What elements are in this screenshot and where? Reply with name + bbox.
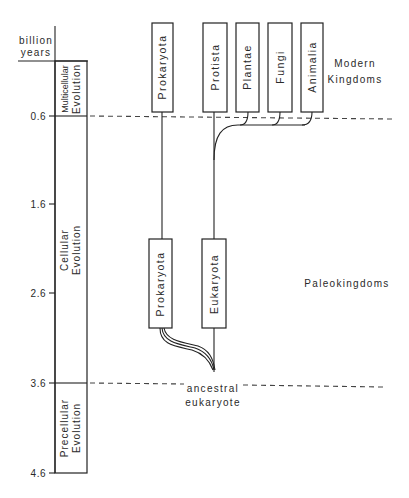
- svg-text:Evolution: Evolution: [71, 403, 82, 453]
- evolution-timeline-diagram: billion years 0.6 1.6 2.6 3.6 4.6 Multic…: [0, 0, 409, 498]
- paleo-box-eukaryota: Eukaryota: [202, 239, 226, 328]
- boundary-0-6-dashed-line: [90, 116, 392, 119]
- svg-text:Eukaryota: Eukaryota: [208, 254, 220, 314]
- era-cellular-evolution: Cellular Evolution: [59, 225, 82, 275]
- svg-text:Animalia: Animalia: [306, 41, 318, 92]
- paleokingdoms: Prokaryota Eukaryota Paleokingdoms: [149, 239, 390, 328]
- svg-text:Evolution: Evolution: [71, 64, 82, 114]
- paleokingdoms-label: Paleokingdoms: [304, 278, 389, 289]
- svg-text:ancestral: ancestral: [187, 383, 239, 394]
- axis-unit-line2: years: [21, 47, 51, 58]
- branch-from-protista: [214, 125, 305, 160]
- era-multicellular-evolution: Multicellular Evolution: [60, 64, 82, 114]
- axis-unit-line1: billion: [19, 35, 53, 46]
- modern-kingdoms: Prokaryota Protista Plantae Fungi Animal…: [152, 23, 382, 112]
- svg-text:Prokaryota: Prokaryota: [156, 35, 168, 100]
- tick-2-6: 2.6: [31, 288, 55, 299]
- ancestral-eukaryote-label: ancestral eukaryote: [185, 383, 241, 408]
- branch-to-plantae: [240, 112, 248, 125]
- branch-to-fungi: [272, 112, 280, 125]
- tick-label: 4.6: [31, 468, 46, 479]
- lineage-lines: [160, 112, 312, 372]
- modern-box-animalia: Animalia: [301, 23, 323, 112]
- tick-4-6: 4.6: [31, 468, 55, 479]
- tick-label: 2.6: [31, 288, 46, 299]
- svg-text:Cellular: Cellular: [59, 229, 70, 271]
- svg-text:Plantae: Plantae: [241, 44, 253, 89]
- modern-kingdoms-label-line2: Kingdoms: [328, 74, 383, 85]
- tick-label: 0.6: [31, 111, 46, 122]
- svg-text:Fungi: Fungi: [274, 50, 286, 83]
- svg-text:eukaryote: eukaryote: [185, 397, 241, 408]
- svg-text:Multicellular: Multicellular: [60, 65, 70, 113]
- modern-kingdoms-label-line1: Modern: [334, 58, 376, 69]
- boundary-3-6-dashed-line-right: [243, 385, 383, 387]
- modern-box-prokaryota: Prokaryota: [152, 23, 173, 112]
- tick-3-6: 3.6: [31, 378, 55, 389]
- tick-0-6: 0.6: [31, 111, 55, 122]
- svg-text:Protista: Protista: [209, 44, 221, 91]
- svg-text:Prokaryota: Prokaryota: [154, 252, 166, 317]
- svg-text:Precellular: Precellular: [59, 399, 70, 457]
- modern-box-plantae: Plantae: [236, 23, 259, 112]
- tick-1-6: 1.6: [31, 199, 55, 210]
- modern-box-fungi: Fungi: [268, 23, 292, 112]
- tick-label: 1.6: [31, 199, 46, 210]
- symbiosis-curve-1: [160, 328, 213, 370]
- svg-text:Evolution: Evolution: [71, 225, 82, 275]
- era-column: Multicellular Evolution Cellular Evoluti…: [55, 61, 87, 473]
- boundary-3-6-dashed-line-left: [90, 383, 184, 384]
- modern-box-protista: Protista: [203, 23, 227, 112]
- era-precellular-evolution: Precellular Evolution: [59, 399, 82, 457]
- tick-label: 3.6: [31, 378, 46, 389]
- paleo-box-prokaryota: Prokaryota: [149, 239, 172, 328]
